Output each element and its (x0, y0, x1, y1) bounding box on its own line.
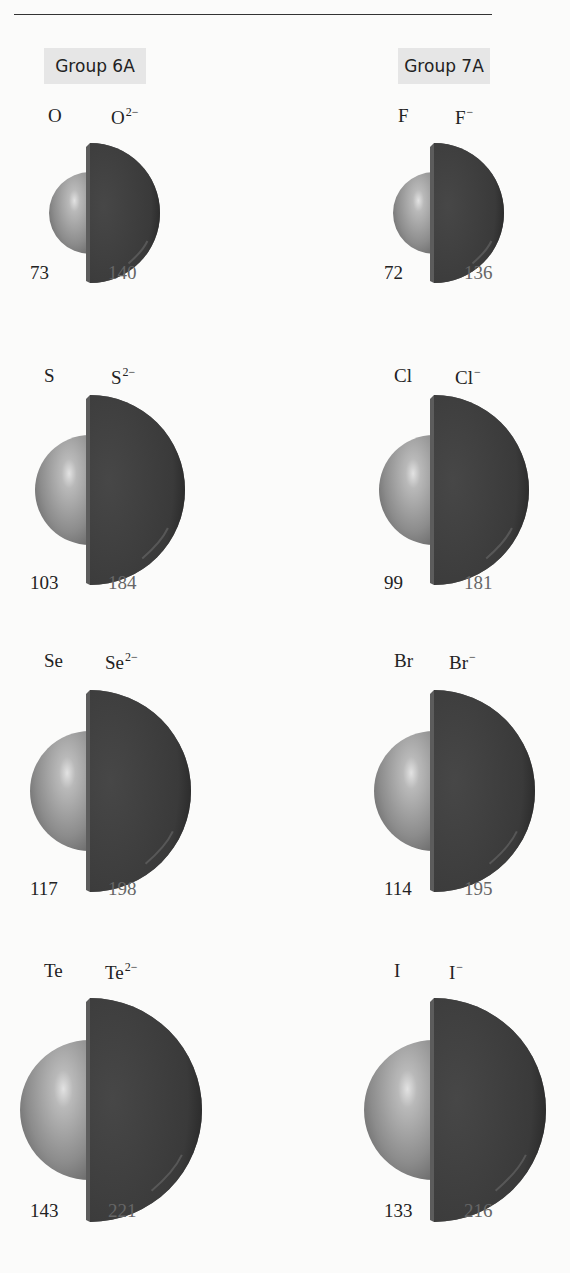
atom-sphere-icon (379, 435, 434, 545)
ion-element: Te (105, 962, 124, 983)
radius-comparison-graphic (360, 998, 552, 1232)
ion-element: O (111, 107, 125, 128)
atom-symbol: I (394, 960, 400, 982)
radius-comparison-graphic (45, 143, 166, 293)
atomic-radius-value: 73 (30, 262, 49, 284)
top-rule (14, 14, 492, 15)
atom-sphere-icon (35, 435, 90, 545)
ion-symbol: I− (449, 960, 463, 984)
ion-element: Cl (455, 367, 473, 388)
ion-symbol: Cl− (455, 365, 481, 389)
ionic-radius-value: 221 (108, 1200, 137, 1222)
atom-sphere-icon (393, 172, 434, 254)
group-6a-header: Group 6A (44, 48, 146, 84)
ionic-radius-value: 195 (464, 878, 493, 900)
atom-sphere-icon (374, 731, 434, 851)
ion-element: F (455, 107, 466, 128)
group-7a-header: Group 7A (398, 48, 490, 84)
ionic-radius-value: 140 (108, 262, 137, 284)
radius-comparison-graphic (31, 395, 191, 595)
atom-symbol: Cl (394, 365, 412, 387)
atom-sphere-icon (49, 172, 90, 254)
atom-sphere-icon (20, 1040, 90, 1180)
radius-comparison-graphic (375, 395, 535, 595)
ion-symbol: O2− (111, 105, 139, 129)
ion-hemisphere-icon (86, 998, 202, 1222)
atom-symbol: Se (44, 650, 63, 672)
atom-symbol: Br (394, 650, 413, 672)
ion-element: Br (449, 652, 468, 673)
ion-element: Se (105, 652, 124, 673)
atom-symbol: O (48, 105, 62, 127)
ionic-radius-value: 198 (108, 878, 137, 900)
atom-symbol: Te (44, 960, 63, 982)
atomic-radius-value: 103 (30, 572, 59, 594)
atomic-radius-value: 143 (30, 1200, 59, 1222)
ion-charge: − (469, 650, 476, 664)
ion-symbol: Br− (449, 650, 476, 674)
ion-element: I (449, 962, 455, 983)
atom-sphere-icon (30, 731, 90, 851)
atomic-radius-value: 117 (30, 878, 58, 900)
ion-element: S (111, 367, 122, 388)
ion-symbol: S2− (111, 365, 135, 389)
ion-hemisphere-icon (430, 395, 529, 585)
ionic-radius-value: 136 (464, 262, 493, 284)
atomic-radius-value: 72 (384, 262, 403, 284)
atomic-radius-value: 99 (384, 572, 403, 594)
atomic-radius-value: 133 (384, 1200, 413, 1222)
radius-comparison-graphic (26, 690, 197, 902)
atom-symbol: F (398, 105, 409, 127)
ion-charge: − (467, 105, 474, 119)
ion-symbol: F− (455, 105, 473, 129)
ion-charge: 2− (125, 650, 138, 664)
ion-charge: 2− (123, 365, 136, 379)
ionic-radius-value: 184 (108, 572, 137, 594)
ion-charge: − (474, 365, 481, 379)
radius-comparison-graphic (16, 998, 208, 1232)
ion-hemisphere-icon (430, 998, 546, 1222)
atom-symbol: S (44, 365, 55, 387)
atomic-radius-value: 114 (384, 878, 412, 900)
ion-symbol: Te2− (105, 960, 138, 984)
ion-hemisphere-icon (430, 690, 535, 892)
ion-charge: 2− (125, 960, 138, 974)
ion-hemisphere-icon (86, 690, 191, 892)
ion-charge: − (456, 960, 463, 974)
ion-hemisphere-icon (86, 395, 185, 585)
ion-symbol: Se2− (105, 650, 138, 674)
atom-sphere-icon (364, 1040, 434, 1180)
ionic-radius-value: 216 (464, 1200, 493, 1222)
ionic-radius-value: 181 (464, 572, 493, 594)
radius-comparison-graphic (370, 690, 541, 902)
ion-charge: 2− (126, 105, 139, 119)
